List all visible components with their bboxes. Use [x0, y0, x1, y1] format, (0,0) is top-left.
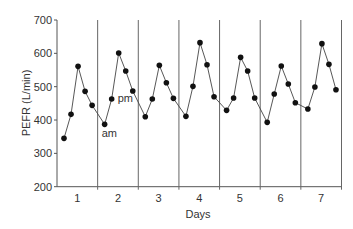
data-point — [183, 114, 189, 120]
data-point — [245, 68, 251, 74]
data-point — [211, 94, 217, 100]
data-point — [333, 87, 339, 93]
data-point — [197, 40, 203, 46]
annotation-pm: pm — [118, 92, 133, 104]
data-point — [82, 89, 88, 95]
x-tick-label: 7 — [318, 192, 324, 204]
y-axis-title: PEFR (L/min) — [20, 70, 32, 137]
data-point — [89, 103, 95, 109]
data-point — [252, 95, 258, 101]
x-axis: 1234567 — [57, 187, 342, 204]
data-point — [142, 114, 148, 120]
y-tick-label: 500 — [34, 81, 52, 93]
y-tick-label: 700 — [34, 14, 52, 26]
data-point — [271, 91, 277, 97]
y-tick-label: 400 — [34, 114, 52, 126]
x-tick-label: 2 — [115, 192, 121, 204]
data-point — [286, 81, 292, 87]
data-point — [75, 64, 81, 70]
x-axis-title: Days — [185, 208, 211, 220]
x-tick-label: 3 — [156, 192, 162, 204]
data-point — [164, 80, 170, 86]
data-point — [224, 108, 230, 114]
y-tick-label: 200 — [34, 181, 52, 193]
data-point — [109, 96, 115, 102]
day-dividers — [98, 20, 342, 190]
data-point — [278, 63, 284, 69]
annotations: ampm — [102, 92, 133, 139]
series-pefr — [61, 40, 339, 141]
x-tick-label: 6 — [277, 192, 283, 204]
data-point — [116, 50, 122, 56]
y-tick-label: 300 — [34, 147, 52, 159]
data-point — [68, 112, 74, 118]
data-point — [157, 63, 163, 69]
data-point — [102, 122, 108, 128]
data-point — [326, 62, 332, 68]
x-tick-label: 4 — [196, 192, 202, 204]
y-axis: 200300400500600700 — [34, 14, 57, 193]
data-point — [231, 95, 237, 101]
annotation-am: am — [102, 127, 117, 139]
data-point — [312, 84, 318, 90]
data-point — [293, 100, 299, 106]
data-point — [61, 136, 67, 142]
data-point — [319, 41, 325, 47]
x-tick-label: 5 — [237, 192, 243, 204]
pefr-chart: 200300400500600700 1234567 ampm PEFR (L/… — [0, 0, 353, 229]
data-point — [123, 68, 129, 74]
data-point — [190, 84, 196, 90]
data-point — [171, 96, 177, 102]
data-point — [204, 62, 210, 68]
x-tick-label: 1 — [74, 192, 80, 204]
y-tick-label: 600 — [34, 47, 52, 59]
data-point — [150, 96, 156, 102]
data-point — [264, 120, 270, 126]
data-point — [238, 55, 244, 61]
data-point — [305, 106, 311, 112]
